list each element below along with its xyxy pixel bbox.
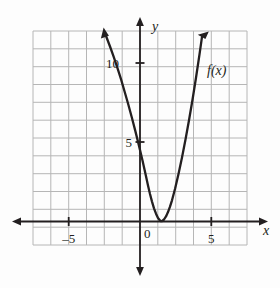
x-axis-label: x [262,223,270,238]
graph-figure: y x 10 5 0 –5 5 f(x) [0,0,280,288]
y-axis-label: y [150,19,159,34]
origin-label: 0 [144,226,151,241]
x-tick-label-5: 5 [208,231,215,246]
x-tick-label-minus5: –5 [61,231,75,246]
coordinate-plane: y x 10 5 0 –5 5 f(x) [0,0,280,288]
y-tick-label-5: 5 [126,135,133,150]
y-tick-label-10: 10 [106,56,119,71]
curve-label-fx: f(x) [207,63,227,79]
